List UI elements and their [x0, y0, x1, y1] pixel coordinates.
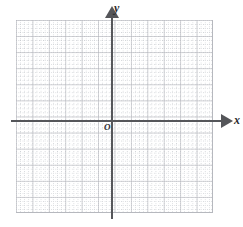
x-axis-label: x [234, 114, 240, 126]
arrow-right-icon [221, 114, 233, 128]
major-gridlines [16, 20, 213, 213]
y-axis-label: y [114, 2, 119, 14]
y-axis-line [111, 13, 113, 219]
origin-label: O [104, 123, 111, 132]
grid-plate [16, 20, 213, 213]
x-axis-line [11, 120, 223, 122]
coordinate-grid-figure: y x O [0, 0, 243, 227]
